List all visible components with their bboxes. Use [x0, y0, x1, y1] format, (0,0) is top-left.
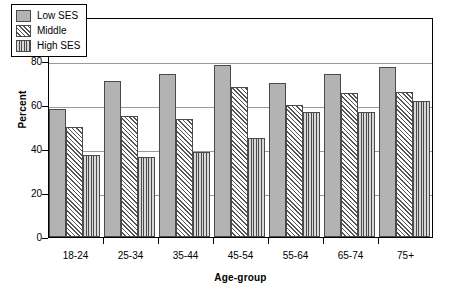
bar-group [104, 19, 159, 237]
y-axis-tick-label: 40 [12, 145, 42, 155]
legend-item: Low SES [16, 8, 80, 23]
x-axis-tick-mark [268, 238, 269, 244]
bar-group [159, 19, 214, 237]
y-axis-tick-label: 80 [12, 57, 42, 67]
bar [138, 157, 155, 237]
x-axis-tick-label: 35-44 [156, 250, 216, 261]
y-axis-tick-mark [42, 238, 48, 239]
bar [324, 74, 341, 237]
bar [269, 83, 286, 237]
bar [248, 138, 265, 237]
chart-legend: Low SESMiddleHigh SES [11, 4, 87, 57]
bar-group [214, 19, 269, 237]
bar [396, 92, 413, 237]
legend-swatch-icon [16, 10, 31, 22]
legend-swatch-icon [16, 40, 31, 52]
legend-item-label: Low SES [37, 10, 78, 21]
x-axis-tick-label: 45-54 [211, 250, 271, 261]
bar [379, 67, 396, 238]
y-axis-tick-label: 60 [12, 101, 42, 111]
x-axis-tick-mark [158, 238, 159, 244]
bar-group [379, 19, 434, 237]
legend-item-label: Middle [37, 25, 66, 36]
y-axis-tick-label: 0 [12, 233, 42, 243]
x-axis-tick-mark [378, 238, 379, 244]
bar [159, 74, 176, 237]
legend-swatch-icon [16, 25, 31, 37]
bar [121, 116, 138, 237]
y-axis-tick-label: 20 [12, 189, 42, 199]
bar [176, 119, 193, 237]
bar-group [269, 19, 324, 237]
bar [413, 101, 430, 237]
bar [66, 127, 83, 237]
x-axis-tick-mark [323, 238, 324, 244]
bar [231, 87, 248, 237]
bar [358, 112, 375, 237]
bar [341, 93, 358, 237]
x-axis-tick-mark [103, 238, 104, 244]
bar-group [324, 19, 379, 237]
bar [49, 109, 66, 237]
plot-area [48, 18, 433, 238]
legend-item-label: High SES [37, 40, 80, 51]
bar [214, 65, 231, 237]
x-axis-tick-label: 65-74 [321, 250, 381, 261]
bar [193, 152, 210, 237]
legend-item: Middle [16, 23, 80, 38]
x-axis-tick-label: 18-24 [46, 250, 106, 261]
bars-layer [49, 19, 432, 237]
bar [303, 112, 320, 237]
bar [83, 155, 100, 238]
bar [286, 105, 303, 237]
legend-item: High SES [16, 38, 80, 53]
x-axis-title: Age-group [48, 272, 433, 283]
x-axis-tick-label: 75+ [376, 250, 436, 261]
x-axis-tick-mark [213, 238, 214, 244]
x-axis-tick-label: 55-64 [266, 250, 326, 261]
bar-chart: Percent 020406080100 18-2425-3435-4445-5… [0, 0, 455, 302]
x-axis-tick-label: 25-34 [101, 250, 161, 261]
bar [104, 81, 121, 237]
